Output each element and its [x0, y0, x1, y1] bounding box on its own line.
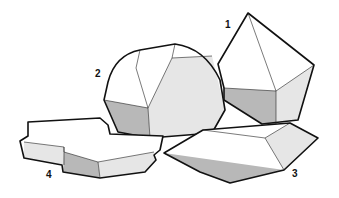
label-crystal-2: 2 [95, 68, 101, 79]
crystal-2 [104, 44, 225, 138]
crystals-drawing: 1 2 3 4 [0, 0, 339, 198]
label-crystal-4: 4 [46, 169, 52, 180]
label-crystal-1: 1 [225, 19, 231, 30]
crystal-1 [218, 13, 314, 124]
label-crystal-3: 3 [292, 168, 298, 179]
